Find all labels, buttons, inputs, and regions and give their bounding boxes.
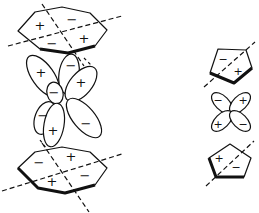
phase-sign: + — [79, 31, 90, 46]
left-bottom-heptagon — [2, 143, 122, 212]
phase-sign: + — [233, 65, 242, 78]
phase-sign: − — [67, 12, 78, 27]
phase-sign: − — [49, 85, 60, 100]
phase-sign: − — [81, 116, 92, 131]
phase-sign: + — [66, 149, 77, 164]
phase-sign: + — [48, 123, 59, 138]
orbital-diagram: + − − + + − + − − + − − + + − − + − + + … — [0, 0, 259, 213]
right-bottom-pentagon — [206, 141, 254, 186]
left-d-orbital — [20, 50, 108, 148]
phase-sign: + — [36, 65, 47, 80]
phase-sign: − — [238, 118, 247, 131]
phase-sign: + — [76, 75, 87, 90]
phase-sign: − — [231, 161, 240, 174]
phase-sign: + — [238, 94, 247, 107]
phase-sign: + — [214, 152, 223, 165]
right-top-pentagon — [204, 42, 255, 87]
phase-sign: − — [80, 168, 91, 183]
phase-sign: − — [218, 53, 227, 66]
phase-sign: − — [47, 36, 58, 51]
phase-sign: + — [35, 18, 46, 33]
phase-sign: + — [213, 118, 222, 131]
phase-sign: − — [66, 58, 77, 73]
phase-sign: − — [34, 155, 45, 170]
phase-sign: − — [213, 94, 222, 107]
phase-sign: − — [38, 108, 49, 123]
phase-sign: + — [47, 174, 58, 189]
